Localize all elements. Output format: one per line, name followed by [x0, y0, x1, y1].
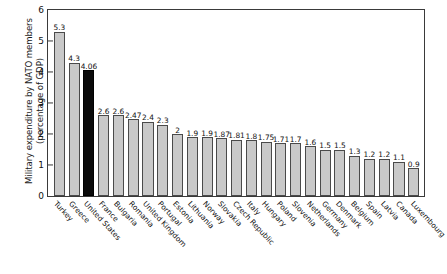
- bar-slot: 1.8: [244, 10, 259, 196]
- bar-slot: 1.1: [392, 10, 407, 196]
- bar-slot: 2.6: [111, 10, 126, 196]
- bar-value-label: 0.9: [408, 161, 420, 169]
- bar-slot: 4.3: [67, 10, 82, 196]
- x-label-slot: Norway: [199, 198, 214, 260]
- bar[interactable]: 1.9: [202, 137, 213, 196]
- x-label-slot: Slovakia: [214, 198, 229, 260]
- bar-slot: 2.3: [155, 10, 170, 196]
- bar[interactable]: 2.6: [98, 115, 109, 196]
- x-label-slot: Belgium: [348, 198, 363, 260]
- bar[interactable]: 2: [172, 134, 183, 196]
- x-label-slot: Netherlands: [303, 198, 318, 260]
- bar[interactable]: 2.47: [128, 119, 139, 196]
- bar[interactable]: 4.06: [83, 70, 94, 196]
- bar-slot: 1.5: [333, 10, 348, 196]
- bar[interactable]: 1.5: [334, 150, 345, 197]
- y-tick-label-3: 3: [38, 98, 48, 108]
- bar[interactable]: 2.6: [113, 115, 124, 196]
- bar-slot: 1.75: [259, 10, 274, 196]
- bar-series: 5.34.34.062.62.62.472.42.321.91.91.871.8…: [48, 10, 424, 196]
- x-label-slot: Latvia: [378, 198, 393, 260]
- x-label-slot: France: [96, 198, 111, 260]
- bar-value-label: 1.7: [290, 136, 302, 144]
- bar-value-label: 1.1: [393, 154, 405, 162]
- x-axis-labels: TurkeyGreeceUnited StatesFranceBulgariaR…: [47, 198, 425, 260]
- bar-value-label: 1.5: [319, 142, 331, 150]
- bar-slot: 2.4: [141, 10, 156, 196]
- x-label-slot: Lithuania: [185, 198, 200, 260]
- bar-value-label: 4.3: [68, 55, 80, 63]
- bar[interactable]: 1.8: [246, 140, 257, 196]
- x-label-slot: Slovenia: [289, 198, 304, 260]
- x-label-slot: Spain: [363, 198, 378, 260]
- bar[interactable]: 2.3: [157, 125, 168, 196]
- bar-value-label: 1.5: [334, 142, 346, 150]
- bar-value-label: 2.6: [113, 108, 125, 116]
- bar[interactable]: 4.3: [69, 63, 80, 196]
- bar-value-label: 1.3: [349, 148, 361, 156]
- x-label-slot: Turkey: [51, 198, 66, 260]
- y-tick-label-5: 5: [38, 36, 48, 46]
- bar-value-label: 2.4: [142, 114, 154, 122]
- x-label-slot: Poland: [274, 198, 289, 260]
- y-tick-label-2: 2: [38, 129, 48, 139]
- bar[interactable]: 1.5: [320, 150, 331, 197]
- bar[interactable]: 1.81: [231, 140, 242, 196]
- bar-value-label: 1.8: [245, 133, 257, 141]
- bar-value-label: 1.9: [186, 130, 198, 138]
- bar[interactable]: 5.3: [54, 32, 65, 196]
- bar[interactable]: 1.71: [275, 143, 286, 196]
- bar-slot: 1.2: [377, 10, 392, 196]
- bar-value-label: 2.47: [125, 112, 141, 120]
- bar-slot: 1.6: [303, 10, 318, 196]
- x-label-slot: Hungary: [259, 198, 274, 260]
- bar[interactable]: 1.7: [290, 143, 301, 196]
- x-label-slot: Denmark: [333, 198, 348, 260]
- x-label-slot: Greece: [66, 198, 81, 260]
- x-label-slot: Bulgaria: [110, 198, 125, 260]
- x-label-slot: United Kingdom: [140, 198, 155, 260]
- x-axis-category-label: Luxembourg: [409, 200, 446, 239]
- bar-slot: 2: [170, 10, 185, 196]
- bar-slot: 1.87: [214, 10, 229, 196]
- bar[interactable]: 2.4: [142, 122, 153, 196]
- bar[interactable]: 1.75: [261, 142, 272, 196]
- bar-slot: 1.71: [273, 10, 288, 196]
- bar-slot: 5.3: [52, 10, 67, 196]
- x-label-slot: Czech Republic: [229, 198, 244, 260]
- bar-slot: 0.9: [406, 10, 421, 196]
- bar[interactable]: 1.2: [364, 159, 375, 196]
- bar-slot: 4.06: [82, 10, 97, 196]
- bar[interactable]: 1.87: [216, 138, 227, 196]
- bar[interactable]: 1.3: [349, 156, 360, 196]
- y-tick-label-1: 1: [38, 160, 48, 170]
- bar[interactable]: 0.9: [408, 168, 419, 196]
- bar-value-label: 1.2: [364, 151, 376, 159]
- bar-value-label: 1.9: [201, 130, 213, 138]
- bar-value-label: 1.71: [273, 136, 289, 144]
- bar-slot: 2.47: [126, 10, 141, 196]
- bar-value-label: 2: [175, 127, 180, 135]
- x-label-slot: Luxembourg: [407, 198, 422, 260]
- bar-slot: 1.2: [362, 10, 377, 196]
- bar[interactable]: 1.1: [393, 162, 404, 196]
- bar-slot: 1.9: [200, 10, 215, 196]
- bar-slot: 1.9: [185, 10, 200, 196]
- bar-value-label: 1.2: [378, 151, 390, 159]
- bar[interactable]: 1.9: [187, 137, 198, 196]
- x-label-slot: Canada: [392, 198, 407, 260]
- bar-slot: 1.7: [288, 10, 303, 196]
- x-label-slot: Italy: [244, 198, 259, 260]
- x-label-slot: United States: [81, 198, 96, 260]
- bar-slot: 1.81: [229, 10, 244, 196]
- x-label-slot: Germany: [318, 198, 333, 260]
- bar[interactable]: 1.6: [305, 146, 316, 196]
- bar-value-label: 2.6: [98, 108, 110, 116]
- y-tick-label-6: 6: [38, 5, 48, 15]
- bar-value-label: 4.06: [81, 63, 97, 71]
- x-label-slot: Portugal: [155, 198, 170, 260]
- bar-value-label: 5.3: [53, 24, 65, 32]
- bar-value-label: 1.81: [228, 132, 244, 140]
- bar[interactable]: 1.2: [379, 159, 390, 196]
